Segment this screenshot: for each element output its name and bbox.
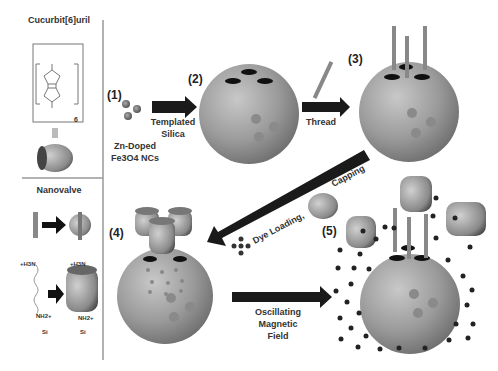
- capped-loaded-sphere-4-icon: [117, 207, 213, 344]
- nanocrystals-icon: [122, 100, 141, 120]
- nanovalve-title: Nanovalve: [18, 184, 100, 196]
- cb6-barrel-opening-icon: [37, 146, 47, 170]
- silane-label-2: Si: [80, 326, 86, 338]
- cucurbituril-title: Cucurbit[6]uril: [18, 14, 100, 26]
- released-sphere-5-icon: [334, 176, 487, 354]
- step-5-label: (5): [322, 224, 337, 238]
- capped-rod-stem-icon: [78, 212, 82, 240]
- step-1-label: (1): [107, 88, 122, 102]
- amine-top-label: +H3N: [20, 258, 36, 270]
- osc-line1: Oscillating: [248, 306, 308, 318]
- osc-line3: Field: [248, 330, 308, 342]
- alkyl-chain-icon: [34, 265, 38, 315]
- step-3-label: (3): [348, 52, 363, 66]
- thread-rod-loose-icon: [313, 61, 334, 99]
- thread-rod-icon: [33, 212, 38, 238]
- amine-bottom-label: NH2+: [36, 310, 52, 322]
- threaded-sphere-3-icon: [359, 26, 459, 162]
- step-4-label: (4): [109, 226, 124, 240]
- dye-molecules-icon: [232, 237, 251, 256]
- nc-label-line2: Fe3O4 NCs: [107, 152, 163, 164]
- small-arrow-icon: [42, 216, 66, 234]
- templated-line2: Silica: [148, 128, 198, 140]
- silica-sphere-2-icon: [199, 64, 299, 164]
- amine-bottom-label-2: NH2+: [78, 312, 94, 324]
- arrow-thread-icon: [302, 97, 350, 117]
- templated-line1: Templated: [148, 116, 198, 128]
- nc-label: Zn-Doped Fe3O4 NCs: [107, 140, 163, 164]
- loose-cap-icon: [308, 193, 338, 219]
- arrow-templated-silica-icon: [152, 96, 197, 118]
- osc-line2: Magnetic: [248, 318, 308, 330]
- small-arrow-2-icon: [48, 284, 64, 304]
- thread-label: Thread: [306, 116, 336, 128]
- arrow-dye-loading-capping-icon: [207, 150, 370, 246]
- repeat-subscript: 6: [74, 114, 78, 126]
- oscillating-field-label: Oscillating Magnetic Field: [248, 306, 308, 342]
- amine-top-label-2: +H3N: [70, 258, 86, 270]
- silane-label: Si: [42, 326, 48, 338]
- arrow-oscillating-field-icon: [232, 286, 332, 308]
- templated-silica-label: Templated Silica: [148, 116, 198, 140]
- nc-label-line1: Zn-Doped: [107, 140, 163, 152]
- step-2-label: (2): [188, 72, 203, 86]
